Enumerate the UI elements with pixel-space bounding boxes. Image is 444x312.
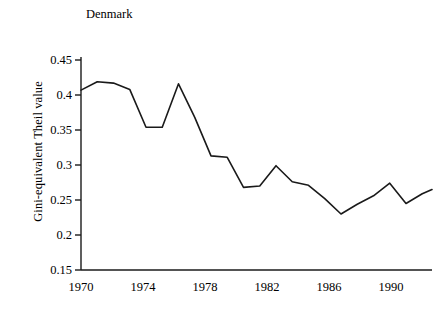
- plot-area: [0, 0, 444, 312]
- chart-container: Gini-equivalent Theil value 0.45 0.4 0.3…: [0, 0, 444, 312]
- y-axis-ticks: [75, 60, 81, 270]
- data-series-line: [81, 82, 432, 214]
